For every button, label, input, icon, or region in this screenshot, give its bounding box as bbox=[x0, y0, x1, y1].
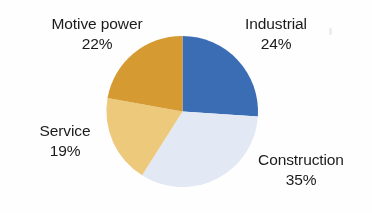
pie-label-construction-category: Construction bbox=[236, 150, 366, 169]
pie-label-motive-power: Motive power 22% bbox=[24, 14, 170, 53]
pie-label-industrial-category: Industrial bbox=[222, 14, 330, 33]
pie-label-industrial: Industrial 24% bbox=[222, 14, 330, 53]
pie-label-motive-power-category: Motive power bbox=[24, 14, 170, 33]
scan-artifact-speck bbox=[329, 28, 332, 35]
pie-label-service-category: Service bbox=[18, 121, 112, 140]
pie-chart-screenshot: Motive power 22% Industrial 24% Service … bbox=[0, 0, 372, 213]
pie-label-service: Service 19% bbox=[18, 121, 112, 160]
pie-label-industrial-percent: 24% bbox=[222, 34, 330, 53]
pie-label-construction: Construction 35% bbox=[236, 150, 366, 189]
pie-label-service-percent: 19% bbox=[18, 141, 112, 160]
pie-chart-figure: Motive power 22% Industrial 24% Service … bbox=[0, 0, 372, 213]
pie-label-motive-power-percent: 22% bbox=[24, 34, 170, 53]
pie-label-construction-percent: 35% bbox=[236, 170, 366, 189]
